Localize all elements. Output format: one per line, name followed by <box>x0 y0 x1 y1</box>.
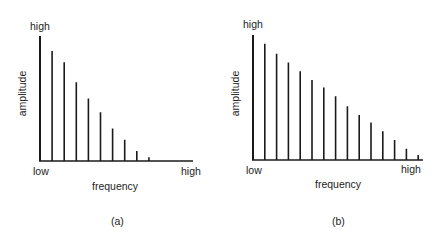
chart-a-caption: (a) <box>111 216 124 227</box>
spectra-figure <box>0 0 441 238</box>
chart-a-bars <box>39 36 193 161</box>
chart-b-x-axis-label: frequency <box>315 179 361 190</box>
chart-a-x-low-label: low <box>33 166 49 177</box>
chart-b-x-low-label: low <box>246 165 262 176</box>
chart-a-y-axis-label: amplitude <box>17 69 28 119</box>
chart-a-x-high-label: high <box>181 166 201 177</box>
chart-a-y-high-label: high <box>30 21 50 32</box>
chart-a-x-axis-label: frequency <box>92 181 138 192</box>
chart-b-caption: (b) <box>332 216 345 227</box>
chart-b-y-high-label: high <box>243 19 263 30</box>
chart-b-y-axis-label: amplitude <box>230 69 241 119</box>
chart-b-x-high-label: high <box>401 164 421 175</box>
chart-b-bars <box>252 35 423 160</box>
